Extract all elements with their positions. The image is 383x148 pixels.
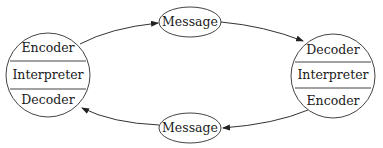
left-party-node: Encoder Interpreter Decoder (6, 33, 90, 117)
top-message-node: Message (159, 7, 221, 37)
arrow-right-to-bottom-message (223, 110, 308, 128)
left-decoder-label: Decoder (21, 92, 74, 107)
right-encoder-label: Encoder (306, 93, 359, 108)
left-interpreter-label: Interpreter (12, 67, 83, 82)
top-message-label: Message (162, 14, 218, 29)
arrow-left-to-top-message (80, 23, 158, 44)
right-party-node: Decoder Interpreter Encoder (291, 34, 375, 118)
arrow-bottom-message-to-left (82, 108, 159, 125)
arrow-top-message-to-right (221, 22, 303, 41)
communication-diagram: Encoder Interpreter Decoder Decoder Inte… (0, 0, 383, 148)
right-interpreter-label: Interpreter (297, 67, 368, 82)
bottom-message-node: Message (159, 113, 221, 143)
right-decoder-label: Decoder (306, 42, 359, 57)
left-encoder-label: Encoder (21, 40, 74, 55)
bottom-message-label: Message (162, 120, 218, 135)
